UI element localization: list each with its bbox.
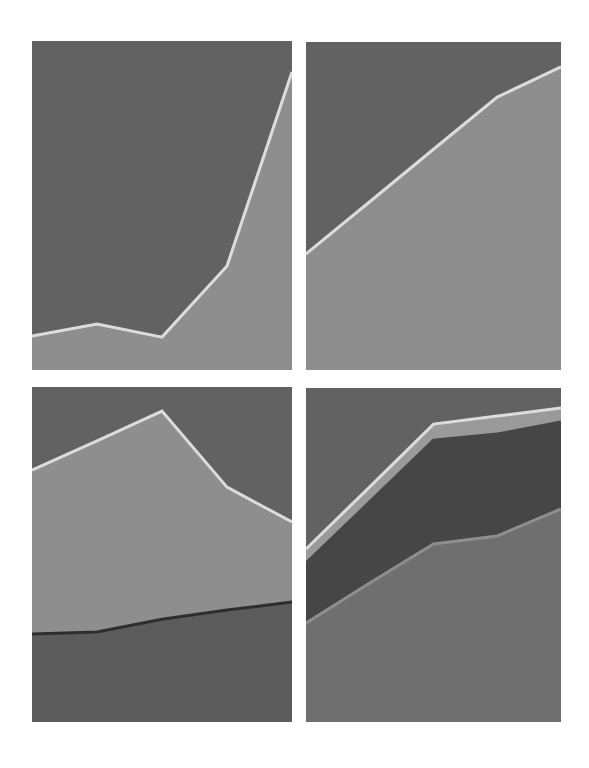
- area-chart-panel-4: [306, 388, 561, 722]
- area-chart-panel-2: [306, 42, 561, 370]
- area-chart-panel-3: [32, 387, 292, 722]
- area-chart-panel-1: [32, 41, 292, 370]
- chart-plot-area: [306, 42, 561, 370]
- chart-plot-area: [32, 41, 292, 370]
- chart-plot-area: [306, 388, 561, 722]
- chart-plot-area: [32, 387, 292, 722]
